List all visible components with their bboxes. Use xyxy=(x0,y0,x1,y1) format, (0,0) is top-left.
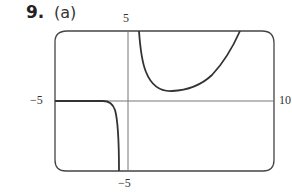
xmin-tick-label: −5 xyxy=(30,93,43,108)
xmax-tick-label: 10 xyxy=(279,93,291,108)
graph xyxy=(0,0,292,194)
ymax-tick-label: 5 xyxy=(123,11,129,26)
left-branch-curve xyxy=(55,101,119,171)
ymin-tick-label: −5 xyxy=(118,176,131,191)
right-branch-curve xyxy=(139,31,240,91)
